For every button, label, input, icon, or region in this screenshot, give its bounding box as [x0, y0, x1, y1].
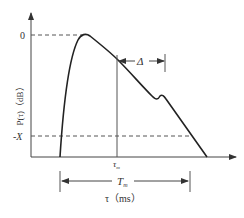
power-delay-curve: [60, 34, 207, 157]
delta-label: Δ: [136, 55, 143, 67]
y-axis-label: P(τ)（dB）: [15, 82, 25, 125]
delay-profile-diagram: Δ Tm 0 -X P(τ)（dB） τm τ（ms）: [0, 0, 244, 218]
y-tick-zero: 0: [20, 30, 25, 41]
x-axis-label: τ（ms）: [105, 193, 141, 204]
tau-m-label: τm: [113, 159, 120, 170]
tm-label: Tm: [117, 175, 128, 188]
y-tick-minus-x: -X: [13, 131, 23, 142]
